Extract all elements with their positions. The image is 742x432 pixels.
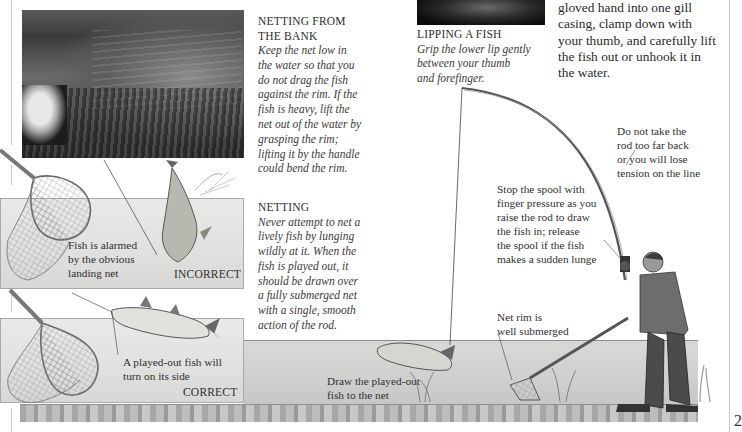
- caption-netting: NETTING Never attempt to net a lively fi…: [258, 200, 403, 333]
- caption-title: LIPPING A FISH: [417, 27, 557, 42]
- label-line: A played-out fish will: [123, 355, 222, 369]
- label-line: makes a sudden lunge: [497, 252, 596, 266]
- caption-body-line: lifting it by the handle: [258, 147, 408, 162]
- label-line: Fish is alarmed: [68, 238, 137, 252]
- reel-icon: [620, 256, 630, 272]
- label-line: finger pressure as you: [497, 196, 596, 210]
- label-line: the fish in; release: [497, 224, 596, 238]
- caption-body-line: lively fish by lunging: [258, 229, 403, 244]
- caption-netting-from-bank: NETTING FROM THE BANK Keep the net low i…: [258, 14, 408, 176]
- label-line: by the obvious: [68, 252, 137, 266]
- caption-title-line1: NETTING FROM: [258, 14, 408, 29]
- body-text-line: your thumb, and carefully lift: [558, 33, 733, 49]
- caption-body-line: could bend the rim.: [258, 161, 408, 176]
- body-text-gill-casing: gloved hand into one gill casing, clamp …: [558, 0, 733, 81]
- riverbed: [20, 404, 698, 422]
- label-line: well submerged: [497, 324, 569, 338]
- caption-body-line: with a single, smooth: [258, 303, 403, 318]
- label-fish-alarmed: Fish is alarmed by the obvious landing n…: [68, 238, 137, 280]
- page-number: 2: [734, 412, 742, 430]
- caption-body-line: fish is heavy, lift the: [258, 102, 408, 117]
- label-line: Stop the spool with: [497, 182, 596, 196]
- body-text-line: casing, clamp down with: [558, 16, 733, 32]
- caption-body-line: should be drawn over: [258, 274, 403, 289]
- caption-body-line: Keep the net low in: [258, 43, 408, 58]
- left-margin-rule-4: [11, 408, 12, 432]
- water-scene: [244, 340, 698, 412]
- label-draw-fish: Draw the played-out fish to the net: [327, 374, 420, 402]
- label-line: fish to the net: [327, 388, 420, 402]
- label-line: Draw the played-out: [327, 374, 420, 388]
- caption-body-line: Never attempt to net a: [258, 215, 403, 230]
- body-text-line: gloved hand into one gill: [558, 0, 733, 16]
- caption-body-line: against the rim. If the: [258, 87, 408, 102]
- caption-body-line: Grip the lower lip gently: [417, 42, 557, 57]
- label-rod-tension: Do not take the rod too far back or you …: [617, 124, 700, 180]
- left-margin-rule-2: [11, 165, 12, 185]
- label-line: landing net: [68, 266, 137, 280]
- verdict-correct: CORRECT: [183, 386, 237, 398]
- caption-body-line: net out of the water by: [258, 117, 408, 132]
- caption-body-line: grasping the rim;: [258, 132, 408, 147]
- label-line: tension on the line: [617, 166, 700, 180]
- label-line: raise the rod to draw: [497, 210, 596, 224]
- caption-body-line: wildly at it. When the: [258, 244, 403, 259]
- verdict-incorrect: INCORRECT: [174, 268, 241, 280]
- caption-title-line2: THE BANK: [258, 29, 408, 44]
- label-net-rim: Net rim is well submerged: [497, 310, 569, 338]
- label-line: Net rim is: [497, 310, 569, 324]
- caption-body-line: between your thumb: [417, 56, 557, 71]
- label-line: rod too far back: [617, 138, 700, 152]
- body-text-line: the fish out or unhook it in: [558, 49, 733, 65]
- angler-figure: [22, 85, 67, 145]
- caption-body-line: and forefinger.: [417, 71, 557, 86]
- photo-lipping-fish: [417, 0, 545, 25]
- label-line: the spool if the fish: [497, 238, 596, 252]
- left-margin-rule-3: [11, 292, 12, 312]
- label-line: Do not take the: [617, 124, 700, 138]
- left-margin-rule: [11, 0, 12, 145]
- caption-body-line: a fully submerged net: [258, 288, 403, 303]
- caption-body-line: fish is played out, it: [258, 259, 403, 274]
- body-text-line: the water.: [558, 65, 733, 81]
- caption-body-line: action of the rod.: [258, 318, 403, 333]
- label-played-out-fish: A played-out fish will turn on its side: [123, 355, 222, 383]
- caption-lipping-fish: LIPPING A FISH Grip the lower lip gently…: [417, 27, 557, 86]
- caption-title: NETTING: [258, 200, 403, 215]
- label-spool: Stop the spool with finger pressure as y…: [497, 182, 596, 266]
- photo-netting-from-bank: [22, 10, 244, 158]
- label-line: or you will lose: [617, 152, 700, 166]
- label-line: turn on its side: [123, 369, 222, 383]
- caption-body-line: do not drag the fish: [258, 73, 408, 88]
- caption-body-line: the water so that you: [258, 58, 408, 73]
- fishing-line: [450, 88, 462, 345]
